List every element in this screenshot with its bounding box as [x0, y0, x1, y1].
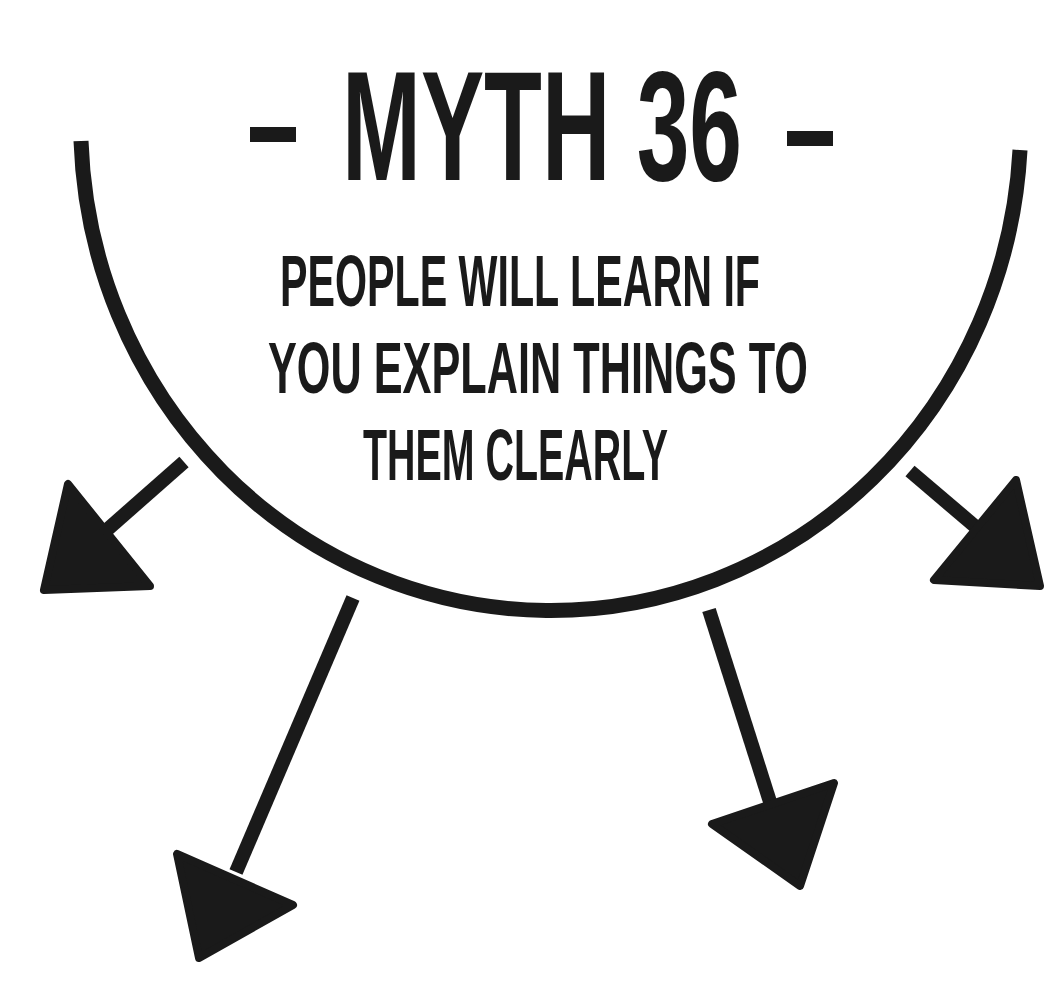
myth-diagram: MYTH 36 PEOPLE WILL LEARN IF YOU EXPLAIN…: [0, 0, 1051, 1007]
statement-line-3: THEM CLEARLY: [363, 415, 668, 495]
statement: PEOPLE WILL LEARN IF YOU EXPLAIN THINGS …: [268, 241, 808, 495]
statement-line-1: PEOPLE WILL LEARN IF: [280, 241, 760, 321]
title-dash-left: [250, 127, 296, 142]
arrow-left-shaft: [100, 462, 184, 536]
arrow-left: [44, 462, 184, 590]
arrow-bottom-left-shaft: [236, 598, 353, 872]
arrow-right: [910, 471, 1040, 586]
arrow-bottom-right-shaft: [709, 610, 772, 808]
arrow-bottom-right: [709, 610, 834, 886]
statement-line-2: YOU EXPLAIN THINGS TO: [268, 328, 808, 408]
arrow-bottom-left: [177, 598, 353, 958]
title: MYTH 36: [250, 39, 833, 213]
title-label: MYTH 36: [342, 39, 742, 213]
title-dash-right: [787, 131, 833, 146]
arrow-right-shaft: [910, 471, 984, 534]
